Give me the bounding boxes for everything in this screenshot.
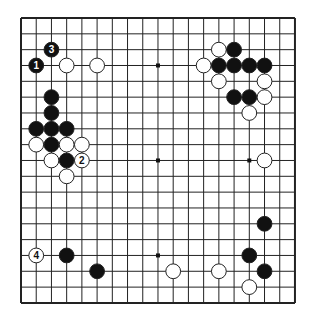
black-stone[interactable]	[59, 121, 74, 136]
black-stone[interactable]	[44, 106, 59, 121]
black-stone[interactable]	[257, 58, 272, 73]
white-stone[interactable]	[59, 169, 74, 184]
white-stone[interactable]	[59, 58, 74, 73]
black-stone[interactable]	[227, 58, 242, 73]
move-number: 4	[33, 250, 39, 261]
white-stone[interactable]	[196, 58, 211, 73]
black-stone[interactable]: 1	[29, 58, 44, 73]
black-stone[interactable]	[242, 248, 257, 263]
move-number: 3	[49, 44, 55, 55]
black-stone[interactable]	[59, 153, 74, 168]
move-number: 2	[79, 155, 85, 166]
black-stone[interactable]	[44, 90, 59, 105]
black-stone[interactable]: 3	[44, 42, 59, 57]
white-stone[interactable]	[257, 153, 272, 168]
white-stone[interactable]	[211, 264, 226, 279]
white-stone[interactable]	[166, 264, 181, 279]
white-stone[interactable]	[211, 74, 226, 89]
star-point	[156, 63, 160, 67]
black-stone[interactable]	[44, 137, 59, 152]
black-stone[interactable]	[44, 121, 59, 136]
star-point	[156, 253, 160, 257]
white-stone[interactable]	[257, 90, 272, 105]
white-stone[interactable]	[74, 137, 89, 152]
white-stone[interactable]	[59, 137, 74, 152]
stones-layer: 1324	[29, 42, 272, 294]
white-stone[interactable]: 2	[74, 153, 89, 168]
white-stone[interactable]	[90, 58, 105, 73]
white-stone[interactable]	[44, 153, 59, 168]
star-point	[247, 158, 251, 162]
black-stone[interactable]	[227, 90, 242, 105]
black-stone[interactable]	[242, 90, 257, 105]
black-stone[interactable]	[257, 216, 272, 231]
black-stone[interactable]	[227, 42, 242, 57]
white-stone[interactable]	[242, 280, 257, 295]
move-number: 1	[33, 60, 39, 71]
black-stone[interactable]	[90, 264, 105, 279]
black-stone[interactable]	[29, 121, 44, 136]
black-stone[interactable]	[211, 58, 226, 73]
go-board[interactable]: 1324	[0, 0, 314, 324]
white-stone[interactable]	[242, 106, 257, 121]
white-stone[interactable]	[29, 137, 44, 152]
black-stone[interactable]	[257, 264, 272, 279]
white-stone[interactable]: 4	[29, 248, 44, 263]
star-point	[156, 158, 160, 162]
white-stone[interactable]	[211, 42, 226, 57]
white-stone[interactable]	[257, 74, 272, 89]
black-stone[interactable]	[59, 248, 74, 263]
black-stone[interactable]	[242, 58, 257, 73]
